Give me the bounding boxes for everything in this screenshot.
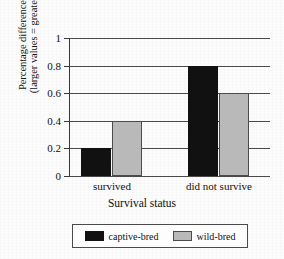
y-tick-mark-0.6 (64, 93, 70, 94)
y-tick-mark-0.4 (64, 121, 70, 122)
y-tick-label-0.8: 0.8 (47, 60, 61, 72)
y-tick-label-1: 1 (56, 32, 62, 44)
y-tick-label-0.6: 0.6 (47, 87, 61, 99)
bar-chart-figure: Percentage difference of wing tip (large… (0, 0, 284, 259)
y-tick-label-0: 0 (56, 170, 62, 182)
bar-did-not-survive-captive-bred (188, 66, 218, 176)
y-tick-mark-0.8 (64, 66, 70, 67)
legend-entry-wild-bred: wild-bred (173, 231, 236, 242)
y-tick-mark-1 (64, 38, 70, 39)
legend-swatch-wild-bred (173, 231, 192, 241)
gridline-1.0 (69, 38, 270, 39)
y-tick-label-0.4: 0.4 (47, 115, 61, 127)
legend-label-wild-bred: wild-bred (197, 231, 236, 242)
x-tick-label-did-not-survive: did not survive (186, 180, 252, 192)
plot-area: 1 0.8 0.6 0.4 0.2 0 survived did n (69, 38, 270, 176)
x-axis-line (69, 176, 270, 177)
bar-survived-captive-bred (81, 148, 111, 176)
y-axis-label-line1: Percentage difference of wing tip (17, 0, 28, 90)
y-tick-mark-0.2 (64, 148, 70, 149)
x-tick-label-survived: survived (93, 180, 131, 192)
bar-did-not-survive-wild-bred (219, 93, 249, 176)
y-axis-label: Percentage difference of wing tip (large… (11, 0, 45, 109)
legend-swatch-captive-bred (85, 231, 104, 241)
y-axis-label-line2: (larger values = greater difference) (28, 0, 39, 93)
bar-survived-wild-bred (112, 121, 142, 176)
legend: captive-bred wild-bred (72, 224, 248, 248)
y-tick-label-0.2: 0.2 (47, 142, 61, 154)
y-axis-line (69, 38, 70, 177)
legend-label-captive-bred: captive-bred (109, 231, 159, 242)
x-axis-label: Survival status (0, 197, 284, 209)
legend-entry-captive-bred: captive-bred (85, 231, 159, 242)
gridline-0.8 (69, 66, 270, 67)
y-tick-mark-0 (64, 176, 70, 177)
